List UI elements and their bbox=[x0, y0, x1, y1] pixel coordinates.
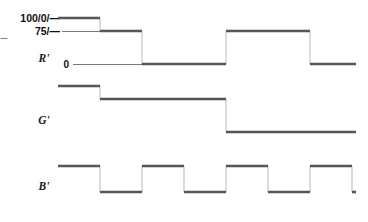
axis-label-g: G' bbox=[38, 114, 50, 126]
waveform-figure: 100/0/— 75/— 0 R' G' B' bbox=[0, 0, 368, 222]
trace-g-edges bbox=[100, 86, 226, 132]
trace-b bbox=[58, 166, 356, 192]
scale-label-top: 100/0/— bbox=[20, 12, 60, 24]
trace-r bbox=[58, 18, 356, 64]
axis-label-r: R' bbox=[38, 52, 50, 64]
trace-g bbox=[58, 86, 356, 132]
trace-b-edges bbox=[100, 166, 352, 192]
scale-label-mid: 75/— bbox=[35, 25, 61, 37]
trace-r-edges bbox=[100, 18, 310, 64]
scale-label-zero: 0 bbox=[63, 59, 69, 70]
waveform-svg: 100/0/— 75/— 0 R' G' B' bbox=[0, 0, 368, 222]
axis-label-b: B' bbox=[38, 180, 50, 192]
